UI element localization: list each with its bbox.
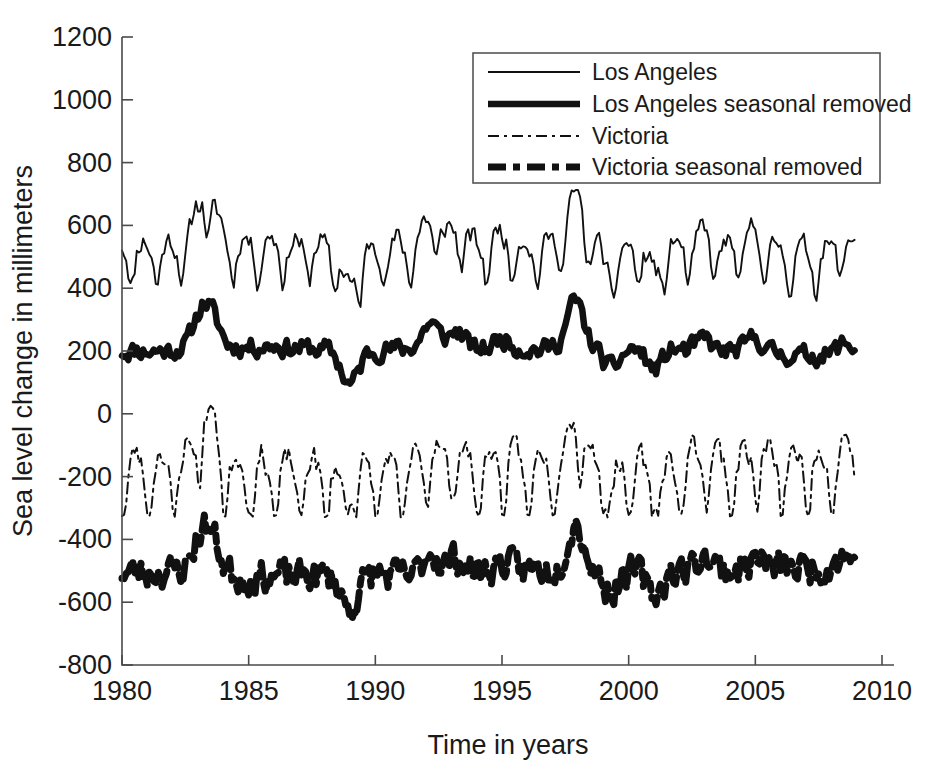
legend: Los AngelesLos Angeles seasonal removedV… [473, 53, 912, 183]
y-tick-label: -800 [58, 650, 112, 680]
y-tick-label: 400 [67, 273, 112, 303]
y-tick-label: 1200 [52, 22, 112, 52]
sea-level-line-chart: 1980198519901995200020052010 -800-600-40… [0, 0, 931, 769]
y-axis-title: Sea level change in millimeters [8, 165, 38, 537]
legend-label-2: Los Angeles seasonal removed [592, 91, 912, 117]
x-tick-label: 2010 [852, 676, 912, 706]
legend-label-1: Los Angeles [592, 59, 717, 85]
x-tick-label: 2000 [599, 676, 659, 706]
y-tick-label: -600 [58, 587, 112, 617]
x-tick-label: 1985 [219, 676, 279, 706]
legend-label-4: Victoria seasonal removed [592, 154, 863, 180]
y-tick-label: 800 [67, 148, 112, 178]
legend-label-3: Victoria [592, 123, 668, 149]
y-tick-label: 200 [67, 336, 112, 366]
x-axis-title: Time in years [427, 730, 588, 760]
y-tick-label: -400 [58, 524, 112, 554]
y-tick-label: -200 [58, 462, 112, 492]
x-tick-label: 1995 [472, 676, 532, 706]
x-tick-label: 1990 [345, 676, 405, 706]
figure-container: 1980198519901995200020052010 -800-600-40… [0, 0, 931, 769]
x-tick-label: 2005 [725, 676, 785, 706]
y-tick-label: 1000 [52, 85, 112, 115]
x-tick-label: 1980 [92, 676, 152, 706]
y-tick-label: 0 [97, 399, 112, 429]
y-tick-label: 600 [67, 210, 112, 240]
